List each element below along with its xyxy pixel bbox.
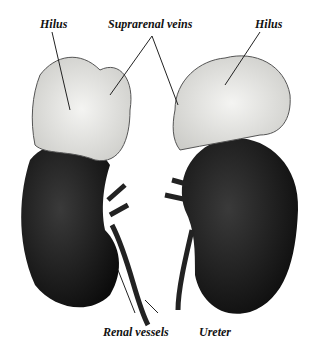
right-kidney — [182, 138, 298, 314]
kidney-illustration — [0, 0, 309, 355]
label-ureter: Ureter — [199, 325, 231, 340]
right-renal-vessels — [165, 180, 192, 310]
right-suprarenal-gland — [173, 56, 290, 150]
label-hilus-right: Hilus — [255, 17, 282, 32]
anatomy-figure: Hilus Suprarenal veins Hilus Renal vesse… — [0, 0, 309, 355]
left-kidney — [21, 144, 119, 308]
label-suprarenal-veins: Suprarenal veins — [108, 17, 192, 32]
label-hilus-left: Hilus — [40, 17, 67, 32]
left-suprarenal-gland — [32, 57, 131, 160]
label-renal-vessels: Renal vessels — [103, 325, 169, 340]
